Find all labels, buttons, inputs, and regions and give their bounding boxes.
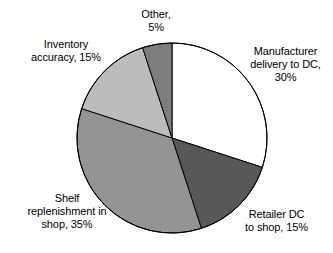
pie-label-manufacturer-delivery-to-dc: Manufacturer delivery to DC, 30%	[238, 45, 333, 84]
pie-label-shelf-replenishment-in-shop: Shelf replenishment in shop, 35%	[4, 192, 130, 231]
pie-label-retailer-dc-to-shop: Retailer DC to shop, 15%	[220, 208, 333, 234]
pie-chart: Other, 5% Inventory accuracy, 15% Manufa…	[0, 0, 333, 253]
pie-label-inventory-accuracy: Inventory accuracy, 15%	[6, 38, 126, 64]
pie-label-other: Other, 5%	[112, 8, 200, 34]
